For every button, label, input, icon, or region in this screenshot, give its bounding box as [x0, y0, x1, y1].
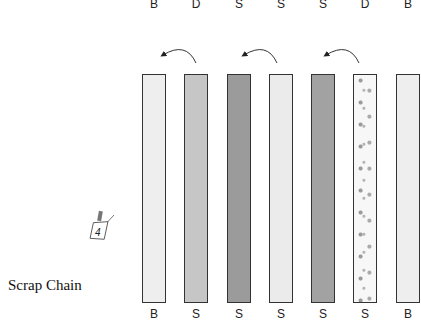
tag-4-icon: 4 — [90, 211, 114, 242]
diagram-caption: Scrap Chain — [8, 277, 82, 294]
swap-arrow-2-icon — [244, 50, 277, 63]
svg-text:4: 4 — [95, 227, 101, 238]
swap-arrow-1-icon — [163, 50, 196, 63]
swap-arrow-3-icon — [326, 50, 359, 63]
diagram-overlay: 4 — [0, 0, 421, 324]
